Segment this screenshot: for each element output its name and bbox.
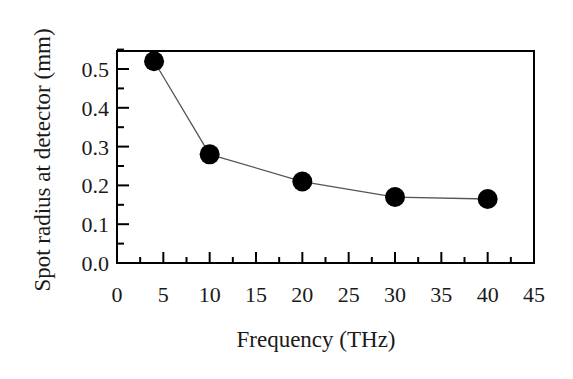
data-markers <box>144 51 498 209</box>
y-axis-label: Spot radius at detector (mm) <box>30 28 55 291</box>
x-tick-label: 40 <box>477 282 499 307</box>
y-tick-label: 0.1 <box>82 212 110 237</box>
y-tick-label: 0.4 <box>82 96 110 121</box>
data-line <box>154 61 488 199</box>
y-axis-ticks: 0.00.10.20.30.40.5 <box>82 50 130 276</box>
data-point <box>385 187 405 207</box>
plot-frame <box>117 51 534 263</box>
x-axis-ticks: 051015202530354045 <box>112 252 546 307</box>
x-tick-label: 30 <box>384 282 406 307</box>
x-tick-label: 20 <box>291 282 313 307</box>
x-tick-label: 35 <box>430 282 452 307</box>
x-tick-label: 25 <box>338 282 360 307</box>
data-point <box>292 172 312 192</box>
data-point <box>144 51 164 71</box>
y-tick-label: 0.2 <box>82 173 110 198</box>
y-tick-label: 0.0 <box>82 251 110 276</box>
x-tick-label: 0 <box>112 282 123 307</box>
x-tick-label: 45 <box>523 282 545 307</box>
x-tick-label: 15 <box>245 282 267 307</box>
data-point <box>200 144 220 164</box>
x-tick-label: 10 <box>199 282 221 307</box>
x-axis-label: Frequency (THz) <box>236 327 395 352</box>
plot-border <box>117 51 534 263</box>
y-tick-label: 0.3 <box>82 135 110 160</box>
spot-radius-chart: 0.00.10.20.30.40.5 051015202530354045 Fr… <box>0 0 573 379</box>
y-tick-label: 0.5 <box>82 57 110 82</box>
x-tick-label: 5 <box>158 282 169 307</box>
data-point <box>478 189 498 209</box>
